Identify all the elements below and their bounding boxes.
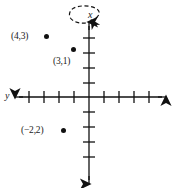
axis-label-vertical: x [88,9,92,20]
data-point-label: (4,3) [11,31,28,41]
axes-and-ticks [0,0,175,188]
data-point-dot [44,34,49,39]
data-point-dot [61,128,66,133]
data-point-dot [71,47,76,52]
data-point-label: (−2,2) [21,125,43,135]
dashed-loop-arrow-icon [69,6,99,23]
data-point-label: (3,1) [53,56,70,66]
axis-label-horizontal: y [5,90,9,101]
coordinate-plane-figure: x y (4,3) (3,1) (−2,2) [0,0,175,188]
